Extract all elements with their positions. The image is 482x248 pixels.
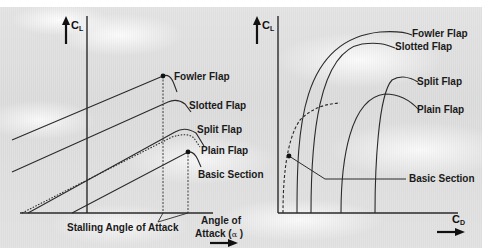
diagram-canvas: CL Fowler Flap Slotted Flap Split Flap P… bbox=[0, 0, 482, 248]
angle-of-attack-label-line1: Angle of bbox=[201, 216, 241, 226]
left-cl-arrow-icon bbox=[62, 16, 70, 44]
angle-of-attack-close-paren: ) bbox=[237, 228, 243, 239]
right-curve-plain-flap bbox=[341, 94, 419, 213]
left-label-slotted-flap: Slotted Flap bbox=[189, 101, 246, 111]
left-alpha-arrow-icon bbox=[210, 239, 238, 247]
basic-stall-point bbox=[186, 150, 191, 155]
right-cl-arrow-icon bbox=[253, 16, 261, 44]
right-label-slotted-flap: Slotted Flap bbox=[395, 42, 452, 52]
fowler-stall-point bbox=[161, 74, 166, 79]
left-label-basic-section: Basic Section bbox=[198, 170, 264, 180]
left-chart bbox=[12, 16, 213, 222]
left-label-plain-flap: Plain Flap bbox=[201, 146, 248, 156]
right-label-split-flap: Split Flap bbox=[417, 77, 462, 87]
right-curve-split-flap bbox=[375, 77, 418, 213]
right-label-basic-section: Basic Section bbox=[409, 174, 475, 184]
left-curve-basic-section bbox=[72, 152, 201, 213]
left-curve-split-flap bbox=[28, 129, 204, 213]
right-y-axis-subscript: L bbox=[270, 25, 274, 32]
right-curve-slotted-flap bbox=[311, 43, 395, 213]
right-x-axis-label: CD bbox=[452, 214, 465, 226]
left-label-split-flap: Split Flap bbox=[197, 125, 242, 135]
right-cd-arrow-icon bbox=[437, 228, 465, 236]
right-basic-section-point bbox=[287, 154, 292, 159]
right-x-axis-subscript: D bbox=[460, 219, 465, 226]
angle-of-attack-label-line2: Attack (α ) bbox=[195, 229, 243, 239]
angle-of-attack-text: Attack ( bbox=[195, 228, 232, 239]
left-y-axis-subscript: L bbox=[79, 25, 83, 32]
stalling-angle-label: Stalling Angle of Attack bbox=[67, 223, 179, 233]
right-label-fowler-flap: Fowler Flap bbox=[412, 29, 468, 39]
right-y-axis-label: CL bbox=[262, 20, 274, 32]
basic-section-leader bbox=[289, 156, 406, 179]
right-y-axis-symbol: C bbox=[262, 19, 270, 31]
left-label-fowler-flap: Fowler Flap bbox=[174, 72, 230, 82]
left-y-axis-symbol: C bbox=[71, 19, 79, 31]
left-curve-slotted-flap bbox=[12, 100, 191, 172]
left-curve-fowler-flap bbox=[12, 75, 177, 140]
right-label-plain-flap: Plain Flap bbox=[417, 105, 464, 115]
right-x-axis-symbol: C bbox=[452, 213, 460, 225]
stall-annotation-leader bbox=[158, 213, 188, 222]
left-y-axis-label: CL bbox=[71, 20, 83, 32]
